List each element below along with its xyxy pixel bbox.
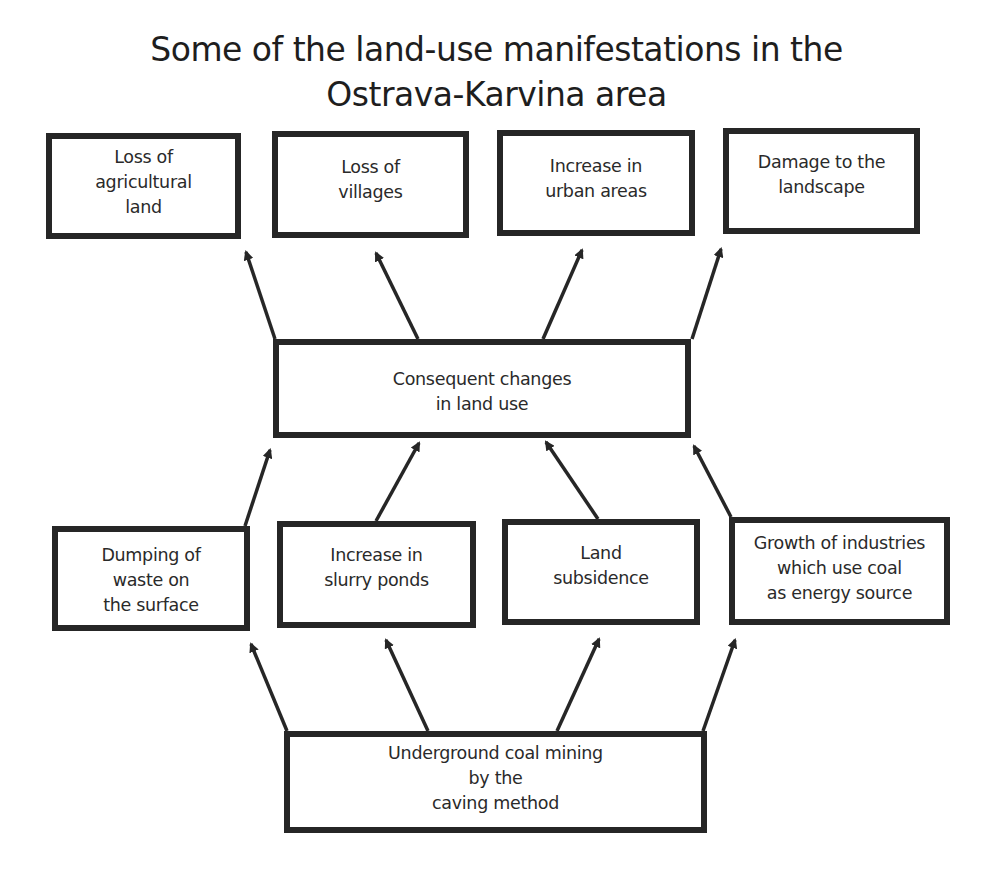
box-label: Growth of industries which use coal as e… — [754, 531, 925, 619]
box-damage-to-landscape: Damage to the landscape — [723, 128, 920, 234]
box-consequent-changes: Consequent changes in land use — [273, 339, 691, 438]
box-label: Dumping of waste on the surface — [101, 543, 200, 625]
box-label: Consequent changes in land use — [393, 367, 572, 432]
box-loss-of-agricultural-land: Loss of agricultural land — [46, 133, 241, 239]
arrow-from-land-subsidence — [546, 442, 598, 519]
arrow-from-dumping-of-waste — [245, 450, 270, 526]
box-label: Increase in urban areas — [545, 154, 647, 230]
box-growth-of-industries: Growth of industries which use coal as e… — [729, 517, 950, 625]
box-underground-coal-mining: Underground coal mining by the caving me… — [284, 731, 707, 833]
box-increase-in-urban-areas: Increase in urban areas — [497, 130, 695, 236]
arrow-to-slurry-ponds — [386, 640, 428, 731]
arrow-to-increase-in-urban-areas — [543, 250, 582, 339]
box-label: Damage to the landscape — [758, 150, 885, 228]
arrow-to-damage-to-landscape — [692, 249, 721, 339]
arrow-from-slurry-ponds — [376, 443, 419, 521]
arrow-to-growth-of-industries — [703, 640, 735, 731]
box-increase-in-slurry-ponds: Increase in slurry ponds — [277, 521, 476, 628]
arrow-to-loss-of-villages — [376, 253, 418, 339]
box-label: Loss of villages — [338, 155, 402, 232]
arrow-to-loss-of-agricultural-land — [246, 252, 275, 339]
box-label: Loss of agricultural land — [95, 145, 192, 233]
box-label: Underground coal mining by the caving me… — [388, 741, 603, 827]
box-dumping-of-waste: Dumping of waste on the surface — [52, 526, 250, 631]
box-loss-of-villages: Loss of villages — [272, 131, 469, 238]
arrow-to-dumping-of-waste — [251, 644, 287, 731]
box-land-subsidence: Land subsidence — [502, 519, 700, 625]
box-label: Increase in slurry ponds — [324, 543, 429, 622]
arrow-from-growth-of-industries — [694, 446, 731, 517]
arrow-to-land-subsidence — [557, 639, 599, 731]
box-label: Land subsidence — [553, 541, 649, 619]
